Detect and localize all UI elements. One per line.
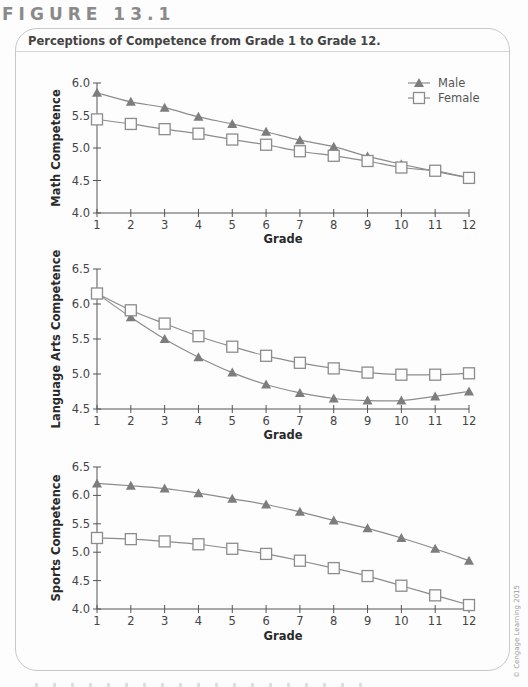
x-tick-label: 12 bbox=[462, 218, 477, 232]
x-tick-label: 2 bbox=[127, 218, 134, 232]
female-data-point bbox=[464, 172, 475, 183]
x-axis-label: Grade bbox=[264, 629, 303, 643]
cropped-caption-text bbox=[35, 683, 365, 687]
y-tick-label: 6.0 bbox=[72, 76, 90, 90]
legend-female-label: Female bbox=[438, 91, 480, 105]
x-tick-label: 4 bbox=[195, 614, 202, 628]
x-tick-label: 9 bbox=[364, 414, 371, 428]
x-tick-label: 4 bbox=[195, 218, 202, 232]
x-tick-label: 9 bbox=[364, 614, 371, 628]
male-data-point bbox=[193, 352, 203, 361]
x-tick-label: 6 bbox=[262, 218, 269, 232]
y-tick-label: 4.5 bbox=[72, 174, 90, 188]
female-data-point bbox=[430, 590, 441, 601]
chart-legend: MaleFemale bbox=[408, 76, 480, 105]
female-data-point bbox=[362, 571, 373, 582]
y-tick-label: 5.5 bbox=[72, 332, 90, 346]
female-data-point bbox=[396, 580, 407, 591]
x-tick-label: 8 bbox=[330, 614, 337, 628]
language-arts-competence-chart: 4.55.05.56.06.5123456789101112GradeLangu… bbox=[49, 249, 476, 442]
x-tick-label: 11 bbox=[428, 414, 443, 428]
x-tick-label: 3 bbox=[161, 218, 168, 232]
series-line-female bbox=[97, 538, 469, 605]
x-axis-label: Grade bbox=[264, 428, 303, 442]
y-axis-label: Sports Competence bbox=[49, 474, 63, 601]
math-competence-chart: 4.04.55.05.56.0123456789101112GradeMath … bbox=[49, 76, 476, 246]
y-tick-label: 4.0 bbox=[72, 602, 90, 616]
male-data-point bbox=[92, 478, 102, 487]
female-data-point bbox=[464, 600, 475, 611]
legend-male-label: Male bbox=[438, 76, 465, 90]
x-tick-label: 12 bbox=[462, 614, 477, 628]
female-data-point bbox=[362, 367, 373, 378]
x-tick-label: 4 bbox=[195, 414, 202, 428]
x-tick-label: 11 bbox=[428, 614, 443, 628]
female-data-point bbox=[261, 139, 272, 150]
female-data-point bbox=[125, 305, 136, 316]
x-tick-label: 9 bbox=[364, 218, 371, 232]
y-tick-label: 5.5 bbox=[72, 517, 90, 531]
female-data-point bbox=[464, 368, 475, 379]
y-tick-label: 6.5 bbox=[72, 262, 90, 276]
female-data-point bbox=[159, 318, 170, 329]
x-tick-label: 1 bbox=[93, 614, 100, 628]
x-tick-label: 10 bbox=[394, 218, 409, 232]
female-data-point bbox=[430, 165, 441, 176]
male-data-point bbox=[160, 334, 170, 343]
x-tick-label: 7 bbox=[296, 218, 303, 232]
female-data-point bbox=[227, 341, 238, 352]
female-data-point bbox=[328, 150, 339, 161]
x-tick-label: 1 bbox=[93, 218, 100, 232]
y-tick-label: 5.0 bbox=[72, 545, 90, 559]
female-data-point bbox=[227, 543, 238, 554]
x-tick-label: 7 bbox=[296, 614, 303, 628]
x-axis-label: Grade bbox=[264, 232, 303, 246]
x-tick-label: 3 bbox=[161, 414, 168, 428]
female-data-point bbox=[92, 288, 103, 299]
x-tick-label: 8 bbox=[330, 218, 337, 232]
female-data-point bbox=[362, 156, 373, 167]
female-data-point bbox=[92, 114, 103, 125]
series-line-male bbox=[97, 93, 469, 178]
x-tick-label: 12 bbox=[462, 414, 477, 428]
legend-female-marker-icon bbox=[414, 93, 425, 104]
female-data-point bbox=[92, 533, 103, 544]
female-data-point bbox=[396, 369, 407, 380]
charts-canvas: 4.04.55.05.56.0123456789101112GradeMath … bbox=[0, 0, 528, 687]
y-tick-label: 6.0 bbox=[72, 297, 90, 311]
y-axis-label: Language Arts Competence bbox=[49, 249, 63, 428]
x-tick-label: 5 bbox=[229, 614, 236, 628]
female-data-point bbox=[193, 539, 204, 550]
female-data-point bbox=[328, 363, 339, 374]
x-tick-label: 5 bbox=[229, 218, 236, 232]
female-data-point bbox=[396, 162, 407, 173]
x-tick-label: 5 bbox=[229, 414, 236, 428]
male-data-point bbox=[464, 556, 474, 565]
y-tick-label: 5.5 bbox=[72, 109, 90, 123]
x-tick-label: 7 bbox=[296, 414, 303, 428]
female-data-point bbox=[430, 369, 441, 380]
female-data-point bbox=[261, 548, 272, 559]
male-data-point bbox=[92, 88, 102, 97]
y-tick-label: 4.5 bbox=[72, 574, 90, 588]
female-data-point bbox=[193, 331, 204, 342]
y-tick-label: 4.0 bbox=[72, 206, 90, 220]
series-line-female bbox=[97, 119, 469, 177]
male-data-point bbox=[227, 368, 237, 377]
copyright-notice: © Cengage Learning 2015 bbox=[513, 585, 521, 678]
female-data-point bbox=[294, 146, 305, 157]
female-data-point bbox=[261, 350, 272, 361]
female-data-point bbox=[125, 534, 136, 545]
x-tick-label: 11 bbox=[428, 218, 443, 232]
x-tick-label: 10 bbox=[394, 614, 409, 628]
x-tick-label: 8 bbox=[330, 414, 337, 428]
sports-competence-chart: 4.04.55.05.56.06.5123456789101112GradeSp… bbox=[49, 460, 476, 643]
x-tick-label: 10 bbox=[394, 414, 409, 428]
x-tick-label: 3 bbox=[161, 614, 168, 628]
female-data-point bbox=[294, 357, 305, 368]
x-tick-label: 2 bbox=[127, 614, 134, 628]
female-data-point bbox=[328, 563, 339, 574]
y-tick-label: 4.5 bbox=[72, 402, 90, 416]
female-data-point bbox=[294, 555, 305, 566]
y-tick-label: 6.0 bbox=[72, 488, 90, 502]
